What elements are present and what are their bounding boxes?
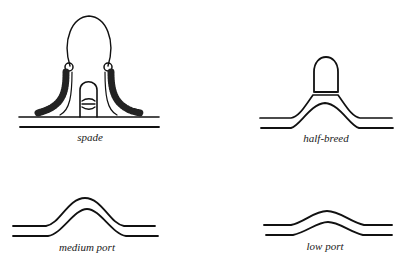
spade-label: spade bbox=[77, 131, 103, 143]
half-breed-label: half-breed bbox=[303, 132, 348, 144]
half-breed-bit-drawing bbox=[260, 57, 393, 128]
low-port-bit-drawing bbox=[264, 211, 392, 235]
spade-bit-drawing bbox=[19, 16, 159, 127]
medium-port-bit-drawing bbox=[13, 198, 158, 236]
low-port-label: low port bbox=[307, 240, 344, 252]
medium-port-label: medium port bbox=[59, 241, 115, 253]
mouthpiece-diagram bbox=[0, 0, 404, 262]
